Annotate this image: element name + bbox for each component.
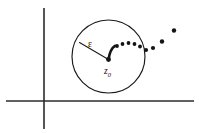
sequence-dot: [133, 42, 137, 46]
sequence-dot: [151, 46, 155, 50]
figure-container: ε z0: [0, 0, 199, 133]
sequence-dot: [115, 44, 119, 48]
sequence-dot: [160, 39, 164, 43]
figure-background: [0, 0, 199, 133]
center-point-marker: [106, 57, 111, 62]
sequence-dot: [121, 42, 125, 46]
sequence-dot: [138, 45, 142, 49]
sequence-dot: [172, 28, 176, 32]
epsilon-label: ε: [88, 39, 92, 49]
epsilon-neighborhood-figure: ε z0: [0, 0, 199, 133]
sequence-dot: [144, 48, 148, 52]
sequence-dot: [127, 41, 131, 45]
